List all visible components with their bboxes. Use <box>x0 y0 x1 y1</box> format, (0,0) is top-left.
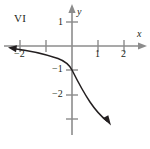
x-tick-label-neg2: −2 <box>14 49 25 59</box>
y-tick-label-neg1: −1 <box>52 64 63 74</box>
x-axis-label: x <box>137 29 141 39</box>
y-axis-label: y <box>77 7 81 17</box>
panel-label: VI <box>14 13 26 24</box>
y-tick-label-1: 1 <box>58 17 63 27</box>
curve-arrowhead-right <box>103 115 111 125</box>
exponential-curve <box>13 49 107 122</box>
x-axis-arrowhead <box>138 42 147 49</box>
y-tick-label-neg2: −2 <box>52 89 63 99</box>
graph-figure: VI x y −2 1 2 1 −1 −2 <box>0 0 150 149</box>
x-tick-label-1: 1 <box>95 49 100 59</box>
y-axis-arrowhead <box>68 4 75 13</box>
x-tick-label-2: 2 <box>121 49 126 59</box>
